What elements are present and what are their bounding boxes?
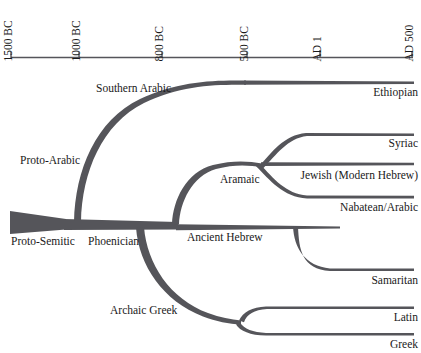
node-label-samaritan: Samaritan [371,275,418,287]
branch-ancient-hebrew [176,224,340,230]
branch-aramaic [172,161,262,224]
node-label-syriac: Syriac [389,138,418,150]
branch-jewish-modern-hebrew [261,162,414,166]
axis-label-500bc: 500 BC [239,26,251,61]
node-label-jewish-modern-hebrew: Jewish (Modern Hebrew) [300,170,418,182]
branch-latin [239,307,414,323]
axis-label-ad500: AD 500 [404,25,416,62]
branch-trunk [64,219,178,230]
branch-ethiopian [244,81,414,85]
node-label-archaic-greek: Archaic Greek [110,305,177,317]
node-label-greek: Greek [390,339,418,351]
node-label-proto-arabic: Proto-Arabic [20,155,80,167]
node-label-aramaic: Aramaic [220,174,260,186]
language-tree-diagram: 1500 BC 1000 BC 800 BC 500 BC AD 1 AD 50… [0,0,421,353]
axis-label-800bc: 800 BC [154,26,166,61]
node-label-ancient-hebrew: Ancient Hebrew [187,232,263,244]
axis-label-1000bc: 1000 BC [71,20,83,61]
branch-greek [236,323,414,336]
node-label-ethiopian: Ethiopian [373,87,418,99]
axis-label-ad1: AD 1 [312,36,324,61]
node-label-phoenician: Phoenician [88,236,139,248]
branch-samaritan [293,226,414,271]
axis-label-1500bc: 1500 BC [3,20,15,61]
node-label-proto-semitic: Proto-Semitic [11,236,75,248]
branch-southern-arabic [74,80,246,222]
node-label-nabatean-arabic: Nabatean/Arabic [340,202,418,214]
node-label-southern-arabic: Southern Arabic [96,83,171,95]
branch-proto-semitic-root [10,211,66,234]
node-label-latin: Latin [394,312,418,324]
